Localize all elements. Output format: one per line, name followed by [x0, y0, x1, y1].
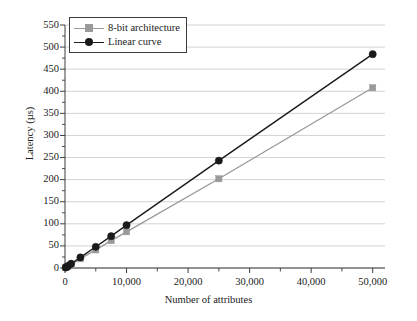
y-tick-label: 400 — [43, 86, 59, 97]
x-axis-label: Number of attributes — [0, 294, 417, 305]
axis-ticks — [60, 25, 373, 273]
x-axis-tick-labels: 010,00020,00030,00040,00050,000 — [0, 276, 417, 292]
circle-marker-icon — [85, 38, 93, 46]
plot-area — [65, 25, 385, 268]
y-tick-label: 0 — [54, 263, 59, 274]
x-tick-label: 50,000 — [358, 276, 387, 287]
gridlines — [65, 25, 385, 268]
chart-figure: 050100150200250300350400450500550 Latenc… — [0, 0, 417, 321]
legend-label: 8-bit architecture — [108, 22, 180, 34]
legend-swatch-square — [74, 22, 104, 34]
y-tick-label: 450 — [43, 64, 59, 75]
y-tick-label: 300 — [43, 130, 59, 141]
x-tick-label: 20,000 — [174, 276, 203, 287]
legend-swatch-circle — [74, 36, 104, 48]
data-series-layer — [62, 51, 376, 272]
plot-svg — [65, 25, 385, 268]
x-tick-label: 0 — [62, 276, 67, 287]
legend-item-8-bit-architecture: 8-bit architecture — [74, 21, 180, 35]
y-tick-label: 250 — [43, 152, 59, 163]
y-axis-label: Latency (µs) — [24, 74, 35, 194]
y-tick-label: 100 — [43, 218, 59, 229]
legend-item-linear-curve: Linear curve — [74, 35, 180, 49]
chart-legend: 8-bit architecture Linear curve — [69, 17, 187, 53]
legend-label: Linear curve — [108, 36, 161, 48]
x-tick-label: 10,000 — [112, 276, 141, 287]
y-tick-label: 350 — [43, 108, 59, 119]
x-tick-label: 40,000 — [297, 276, 326, 287]
y-tick-label: 550 — [43, 20, 59, 31]
y-tick-label: 50 — [49, 240, 60, 251]
y-tick-label: 150 — [43, 196, 59, 207]
y-tick-label: 200 — [43, 174, 59, 185]
square-marker-icon — [85, 24, 93, 32]
y-tick-label: 500 — [43, 42, 59, 53]
axis-lines — [65, 25, 385, 268]
x-tick-label: 30,000 — [235, 276, 264, 287]
